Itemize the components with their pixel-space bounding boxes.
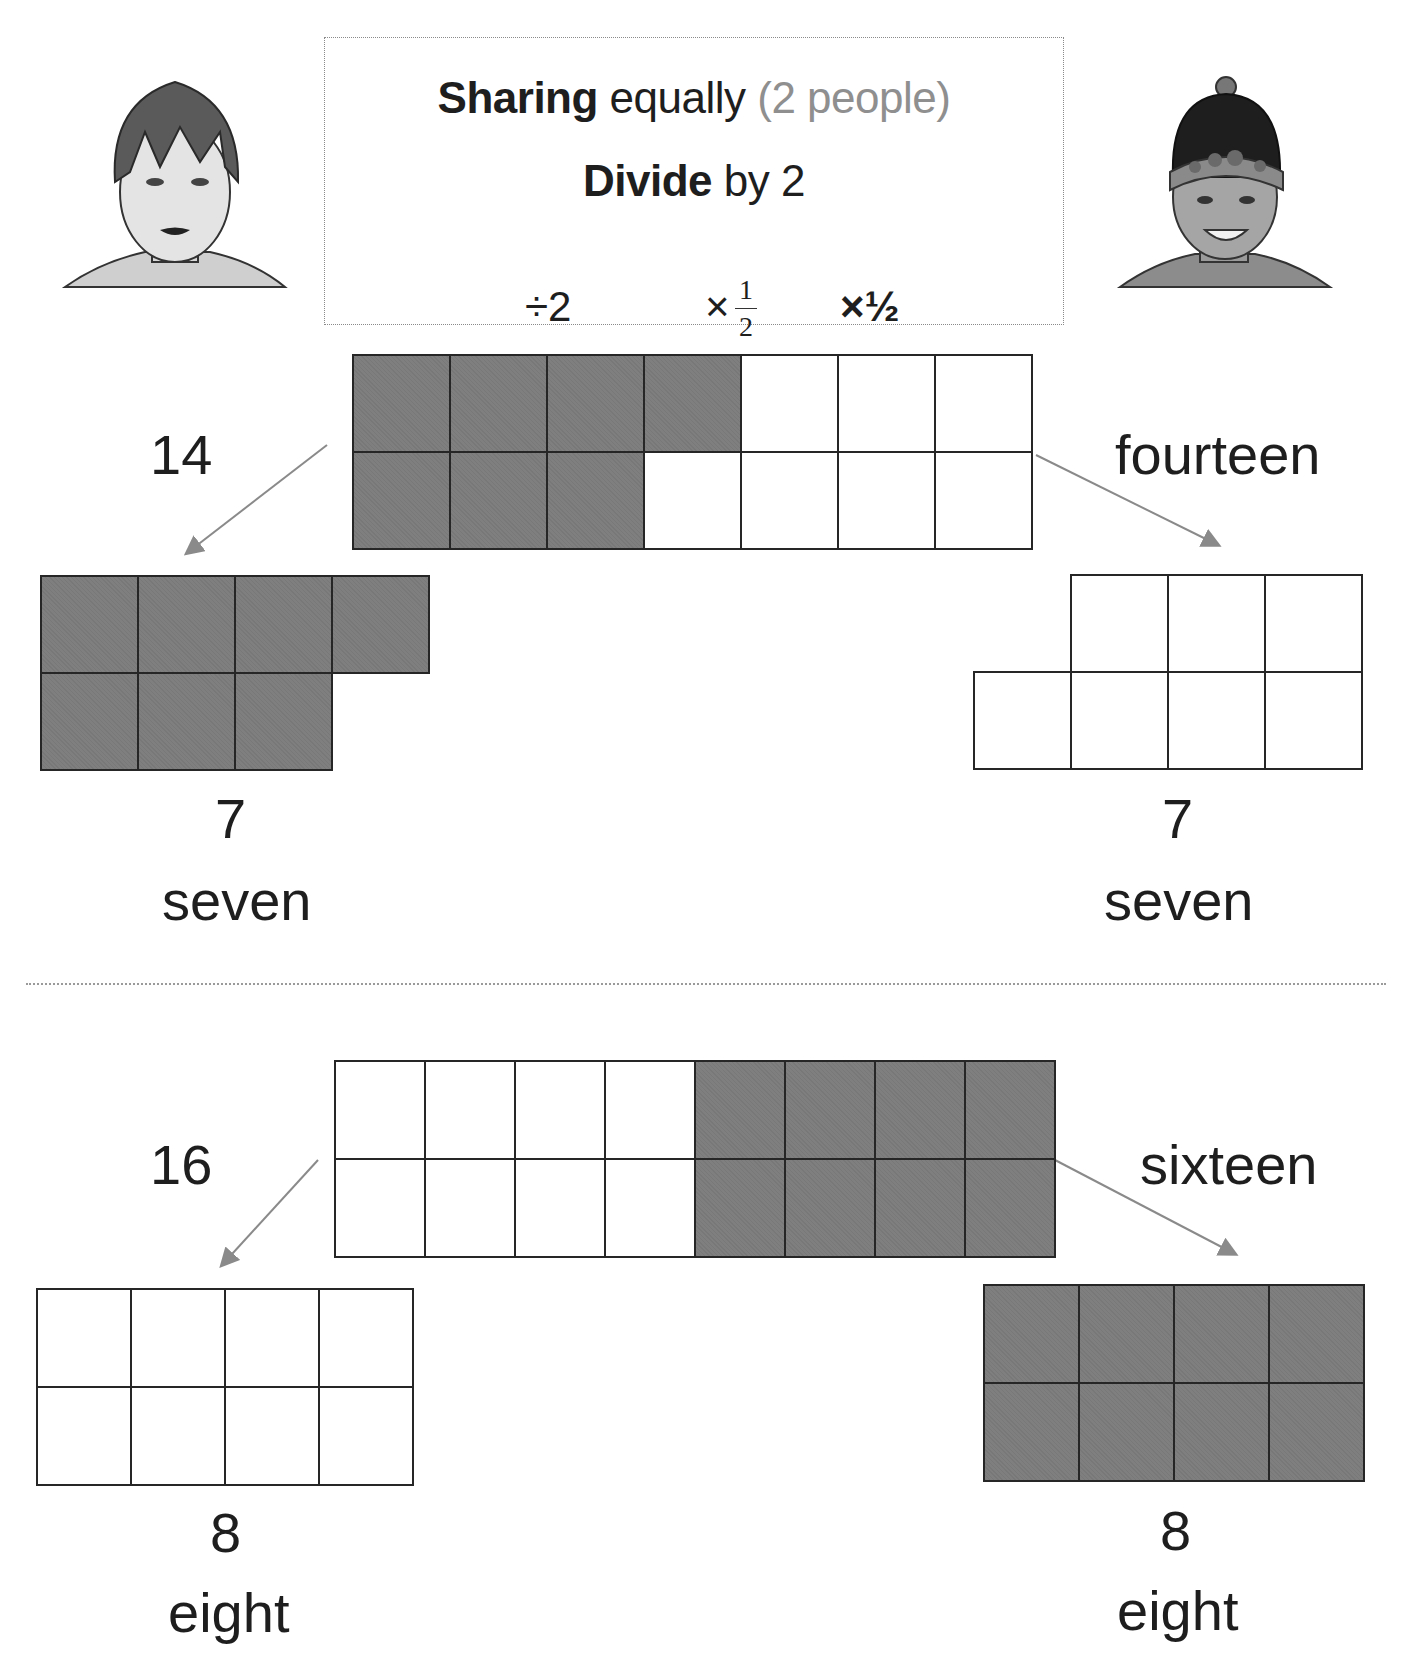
fraction-bar bbox=[735, 308, 757, 309]
grid-cell bbox=[934, 354, 1033, 453]
divide-by-two-op: ÷2 bbox=[525, 283, 571, 331]
grid-cell bbox=[604, 1158, 696, 1258]
grid-cell bbox=[130, 1386, 226, 1486]
left-share-number-8: 8 bbox=[210, 1500, 241, 1565]
right-share-grid-7 bbox=[973, 574, 1365, 770]
left-share-word-eight: eight bbox=[168, 1580, 289, 1645]
grid-cell bbox=[130, 1288, 226, 1388]
grid-cell bbox=[36, 1386, 132, 1486]
grid-cell bbox=[837, 354, 936, 453]
grid-cell bbox=[784, 1060, 876, 1160]
grid-cell bbox=[514, 1060, 606, 1160]
grid-cell bbox=[331, 575, 430, 674]
section-divider bbox=[26, 983, 1386, 985]
grid-cell bbox=[334, 1060, 426, 1160]
grid-cell bbox=[643, 451, 742, 550]
times-sign: × bbox=[705, 283, 730, 331]
total-grid-14 bbox=[352, 354, 1032, 550]
right-share-word-seven: seven bbox=[1104, 868, 1253, 933]
info-card: Sharing equally (2 people) Divide by 2 ÷… bbox=[324, 37, 1064, 325]
fraction-one-half: 1 2 bbox=[735, 276, 757, 341]
total-grid-16 bbox=[334, 1060, 1054, 1258]
sharing-heading: Sharing equally (2 people) bbox=[325, 73, 1063, 123]
left-share-word-seven: seven bbox=[162, 868, 311, 933]
right-share-word-eight: eight bbox=[1117, 1578, 1238, 1643]
right-share-number-7: 7 bbox=[1162, 786, 1193, 851]
grid-cell bbox=[874, 1060, 966, 1160]
left-share-grid-7 bbox=[40, 575, 432, 771]
times-half-op: ×½ bbox=[840, 283, 900, 331]
grid-cell bbox=[449, 451, 548, 550]
grid-cell bbox=[1268, 1284, 1365, 1384]
fraction-numerator: 1 bbox=[735, 276, 757, 304]
grid-cell bbox=[1173, 1382, 1270, 1482]
grid-cell bbox=[234, 672, 333, 771]
grid-cell bbox=[1070, 671, 1169, 770]
grid-cell bbox=[137, 575, 236, 674]
total-word-fourteen: fourteen bbox=[1115, 422, 1321, 487]
grid-cell bbox=[983, 1382, 1080, 1482]
divide-heading: Divide by 2 bbox=[325, 156, 1063, 206]
grid-cell bbox=[318, 1386, 414, 1486]
grid-cell bbox=[1070, 574, 1169, 673]
grid-cell bbox=[643, 354, 742, 453]
grid-cell bbox=[934, 451, 1033, 550]
grid-cell bbox=[694, 1158, 786, 1258]
grid-cell bbox=[964, 1158, 1056, 1258]
grid-cell bbox=[424, 1158, 516, 1258]
grid-cell bbox=[1167, 574, 1266, 673]
person-right-avatar bbox=[1115, 72, 1335, 297]
grid-cell bbox=[352, 451, 451, 550]
arrow-16-left bbox=[222, 1160, 318, 1265]
sharing-people-note: (2 people) bbox=[757, 73, 950, 122]
grid-cell bbox=[546, 451, 645, 550]
grid-cell bbox=[1268, 1382, 1365, 1482]
grid-cell bbox=[1167, 671, 1266, 770]
right-share-grid-8 bbox=[983, 1284, 1363, 1482]
left-share-number-7: 7 bbox=[215, 786, 246, 851]
grid-cell bbox=[137, 672, 236, 771]
grid-cell bbox=[740, 451, 839, 550]
grid-cell bbox=[224, 1288, 320, 1388]
grid-cell bbox=[36, 1288, 132, 1388]
grid-cell bbox=[514, 1158, 606, 1258]
left-share-grid-8 bbox=[36, 1288, 416, 1486]
grid-cell bbox=[964, 1060, 1056, 1160]
right-share-number-8: 8 bbox=[1160, 1498, 1191, 1563]
grid-cell bbox=[1078, 1382, 1175, 1482]
grid-cell bbox=[424, 1060, 516, 1160]
grid-cell bbox=[740, 354, 839, 453]
grid-cell bbox=[1078, 1284, 1175, 1384]
grid-cell bbox=[40, 575, 139, 674]
grid-cell bbox=[352, 354, 451, 453]
grid-cell bbox=[983, 1284, 1080, 1384]
grid-cell bbox=[604, 1060, 696, 1160]
grid-cell bbox=[546, 354, 645, 453]
grid-cell bbox=[784, 1158, 876, 1258]
sharing-normal: equally bbox=[598, 73, 757, 122]
grid-cell bbox=[837, 451, 936, 550]
grid-cell bbox=[973, 671, 1072, 770]
grid-cell bbox=[334, 1158, 426, 1258]
grid-cell bbox=[1264, 574, 1363, 673]
grid-cell bbox=[449, 354, 548, 453]
grid-cell bbox=[694, 1060, 786, 1160]
person-left-avatar bbox=[60, 72, 290, 297]
total-number-14: 14 bbox=[150, 422, 212, 487]
grid-cell bbox=[318, 1288, 414, 1388]
grid-cell bbox=[1173, 1284, 1270, 1384]
fraction-denominator: 2 bbox=[735, 313, 757, 341]
sharing-bold: Sharing bbox=[438, 73, 598, 122]
grid-cell bbox=[874, 1158, 966, 1258]
grid-cell bbox=[40, 672, 139, 771]
grid-cell bbox=[224, 1386, 320, 1486]
divide-bold: Divide bbox=[583, 156, 712, 205]
grid-cell bbox=[1264, 671, 1363, 770]
divide-normal: by 2 bbox=[712, 156, 805, 205]
total-word-sixteen: sixteen bbox=[1140, 1132, 1317, 1197]
total-number-16: 16 bbox=[150, 1132, 212, 1197]
grid-cell bbox=[234, 575, 333, 674]
